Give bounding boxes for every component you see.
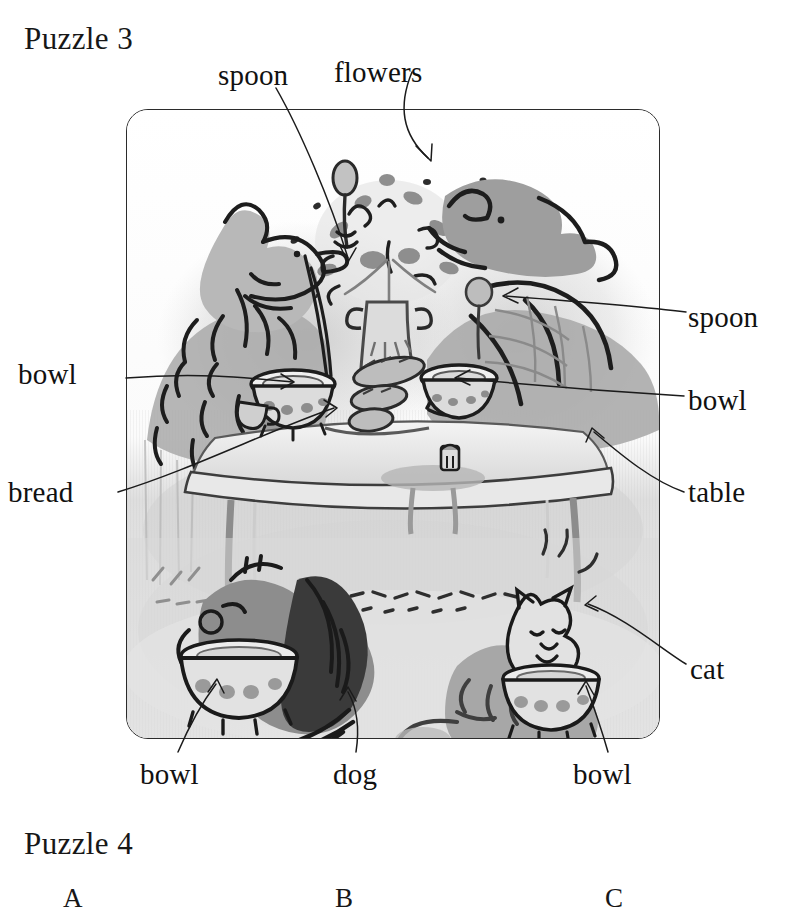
answer-letter-a: A (63, 883, 83, 913)
callout-label-flowers: flowers (334, 58, 422, 87)
page-title-puzzle-4: Puzzle 4 (24, 826, 133, 862)
callout-label-bowl-bottom-right: bowl (573, 760, 632, 789)
callout-label-bowl-right: bowl (688, 386, 747, 415)
callout-label-cat: cat (690, 655, 724, 684)
callout-label-spoon-top: spoon (218, 61, 288, 90)
callout-label-dog: dog (333, 760, 377, 789)
callout-label-bread: bread (8, 478, 73, 507)
answer-letter-c: C (605, 883, 623, 913)
callout-label-spoon-right: spoon (688, 303, 758, 332)
callout-label-table: table (688, 478, 745, 507)
callout-label-bowl-bottom-left: bowl (140, 760, 199, 789)
answer-letter-b: B (335, 883, 353, 913)
callout-label-bowl-left: bowl (18, 360, 77, 389)
illustration-frame (126, 109, 660, 739)
page-title-puzzle-3: Puzzle 3 (24, 21, 133, 57)
illustration-artwork (127, 110, 659, 738)
